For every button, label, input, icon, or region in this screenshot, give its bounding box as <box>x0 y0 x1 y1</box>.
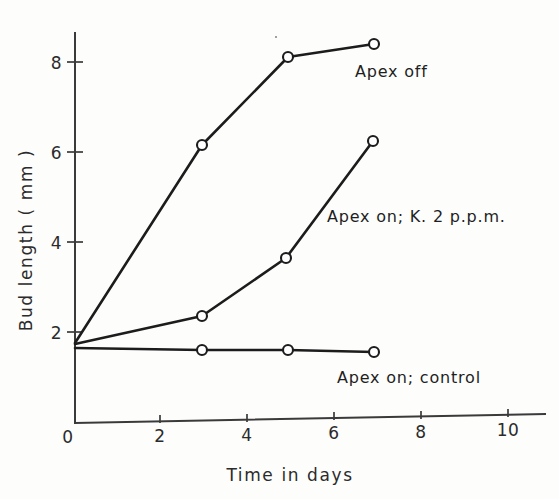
y-tick-label-2: 2 <box>51 323 62 343</box>
marker-group-apex-off <box>197 39 379 150</box>
scan-speck <box>275 36 277 38</box>
series-line-apex-on-kinetin <box>75 141 373 344</box>
y-tick-label-6: 6 <box>51 143 62 163</box>
data-point <box>283 345 293 355</box>
x-tick-label-2: 2 <box>154 426 165 446</box>
data-point <box>197 345 207 355</box>
data-point <box>368 136 378 146</box>
x-tick-label-10: 10 <box>497 420 520 440</box>
series-label-apex-off: Apex off <box>355 62 428 81</box>
series-label-apex-on-control: Apex on; control <box>337 368 481 387</box>
data-point <box>369 347 379 357</box>
y-tick-label-8: 8 <box>51 53 62 73</box>
y-axis-title: Bud length ( mm ) <box>16 149 36 332</box>
marker-group-apex-on-kinetin <box>197 136 378 321</box>
data-point <box>283 52 293 62</box>
x-tick-group: 0 2 4 6 8 10 <box>62 409 519 447</box>
series-line-apex-off <box>75 44 374 343</box>
x-tick-label-4: 4 <box>241 425 252 445</box>
data-point <box>197 311 207 321</box>
chart-figure: 8 6 4 2 0 2 4 6 8 10 Time in days Bud le… <box>0 0 559 499</box>
line-chart-canvas: 8 6 4 2 0 2 4 6 8 10 Time in days Bud le… <box>0 0 559 499</box>
y-tick-group: 8 6 4 2 <box>51 53 83 343</box>
x-axis-line <box>75 414 545 423</box>
x-axis-title: Time in days <box>225 465 353 485</box>
y-tick-label-4: 4 <box>51 233 62 253</box>
data-point <box>197 140 207 150</box>
x-tick-label-0: 0 <box>62 427 73 447</box>
series-group <box>75 44 374 352</box>
x-tick-label-8: 8 <box>415 422 426 442</box>
axes-group <box>75 33 545 423</box>
data-point <box>369 39 379 49</box>
data-point <box>281 253 291 263</box>
series-label-apex-on-kinetin: Apex on; K. 2 p.p.m. <box>327 207 506 226</box>
x-tick-label-6: 6 <box>328 423 339 443</box>
series-line-apex-on-control <box>75 348 374 352</box>
